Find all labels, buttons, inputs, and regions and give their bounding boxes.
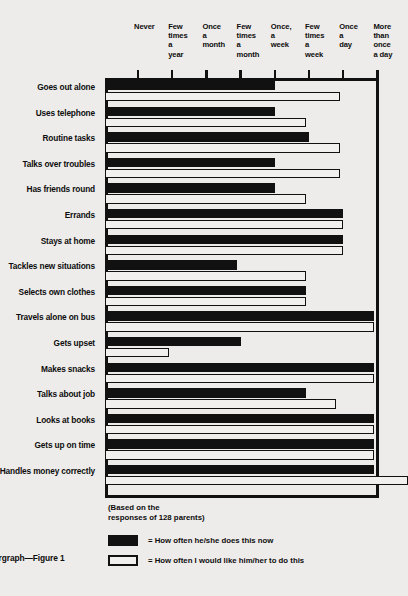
bar-now-5 <box>105 209 343 218</box>
bar-want-2 <box>105 143 340 152</box>
bar-want-3 <box>105 169 340 178</box>
category-label-15: Handles money correctly <box>0 466 95 476</box>
bar-want-9 <box>105 322 374 331</box>
category-label-11: Makes snacks <box>41 364 95 374</box>
category-label-9: Travels alone on bus <box>16 312 95 322</box>
bar-now-8 <box>105 286 306 295</box>
x-tick-label-0: Never <box>134 22 168 31</box>
legend-label-now: = How often he/she does this now <box>148 535 273 546</box>
bar-want-5 <box>105 220 343 229</box>
bar-want-6 <box>105 246 343 255</box>
bar-rows <box>105 81 379 495</box>
bar-now-0 <box>105 81 275 90</box>
category-label-5: Errands <box>65 210 95 220</box>
bar-now-6 <box>105 235 343 244</box>
legend-swatch-filled-icon <box>108 535 138 546</box>
category-label-8: Selects own clothes <box>19 287 95 297</box>
bar-now-7 <box>105 260 237 269</box>
bar-now-4 <box>105 183 275 192</box>
bar-want-15 <box>105 476 408 485</box>
category-label-12: Talks about job <box>37 389 95 399</box>
category-label-3: Talks over troubles <box>22 159 95 169</box>
bar-now-11 <box>105 363 374 372</box>
bar-want-10 <box>105 348 169 357</box>
bar-want-12 <box>105 399 336 408</box>
legend-label-want: = How often I would like him/her to do t… <box>148 555 304 566</box>
bar-now-12 <box>105 388 306 397</box>
category-label-6: Stays at home <box>41 236 95 246</box>
x-tick-label-5: Few times a week <box>305 22 339 59</box>
bar-now-2 <box>105 132 309 141</box>
legend-swatch-outline-icon <box>108 555 138 566</box>
category-label-10: Gets upset <box>54 338 95 348</box>
x-tick-label-7: More than once a day <box>373 22 407 59</box>
legend-item-now: = How often he/she does this now <box>108 533 398 553</box>
bar-now-13 <box>105 414 374 423</box>
bar-now-14 <box>105 439 374 448</box>
bar-want-11 <box>105 374 374 383</box>
category-label-13: Looks at books <box>36 415 95 425</box>
category-label-0: Goes out alone <box>37 82 95 92</box>
bar-want-0 <box>105 92 340 101</box>
bar-want-7 <box>105 271 306 280</box>
x-tick-label-4: Once, a week <box>271 22 305 50</box>
bar-now-1 <box>105 107 275 116</box>
figure-caption: argraph—Figure 1 <box>0 553 65 563</box>
bar-now-10 <box>105 337 241 346</box>
chart-legend: = How often he/she does this now = How o… <box>108 533 398 573</box>
category-label-7: Tackles new situations <box>9 261 95 271</box>
bar-want-14 <box>105 450 374 459</box>
category-label-4: Has friends round <box>27 184 95 194</box>
bar-want-1 <box>105 118 306 127</box>
bar-want-8 <box>105 297 306 306</box>
category-label-14: Gets up on time <box>35 440 95 450</box>
sample-size-note: (Based on the responses of 128 parents) <box>108 503 205 522</box>
x-tick-label-1: Few times a year <box>168 22 202 59</box>
bar-now-15 <box>105 465 374 474</box>
x-tick-label-6: Once a day <box>339 22 373 50</box>
legend-item-want: = How often I would like him/her to do t… <box>108 553 398 573</box>
x-tick-label-3: Few times a month <box>237 22 271 59</box>
bar-want-13 <box>105 425 374 434</box>
category-label-1: Uses telephone <box>36 108 95 118</box>
bar-want-4 <box>105 194 306 203</box>
category-labels: Goes out aloneUses telephoneRoutine task… <box>0 81 99 495</box>
bar-now-9 <box>105 311 374 320</box>
bar-now-3 <box>105 158 275 167</box>
category-label-2: Routine tasks <box>43 133 95 143</box>
x-tick-label-2: Once a month <box>202 22 236 50</box>
